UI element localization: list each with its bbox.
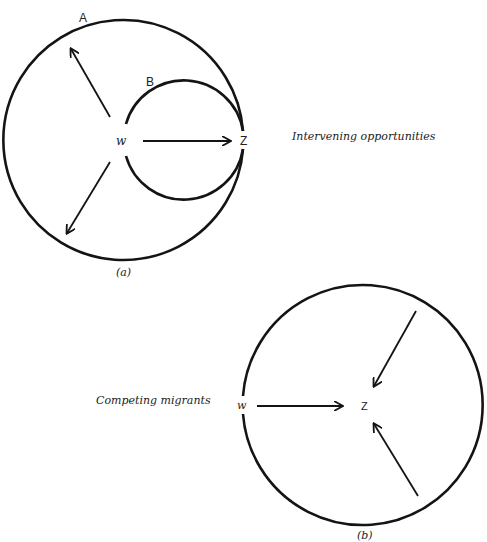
arrow-competing-top [374,311,416,386]
caption-b: (b) [357,529,373,542]
label-circle-a: A [79,11,87,25]
label-destination-z-b: Z [361,400,368,412]
panel-b: w Z Competing migrants (b) [96,285,483,542]
arrow-competing-bottom [374,424,418,496]
label-intervening-opportunities: Intervening opportunities [291,130,436,143]
label-circle-b: B [146,75,154,89]
label-destination-z: Z [240,134,247,148]
arrow-w-to-a-down [67,162,110,233]
label-origin-w-b: w [237,399,247,412]
caption-a: (a) [116,266,131,279]
panel-a: A B w Z Intervening opportunities (a) [3,11,435,279]
label-competing-migrants: Competing migrants [96,394,211,407]
arrow-w-to-a-up [71,49,110,117]
inner-circle-b-bottom [126,149,243,200]
inner-circle-b-top [126,80,243,131]
label-origin-w: w [116,134,127,148]
diagram-canvas: A B w Z Intervening opportunities (a) w … [0,0,487,542]
